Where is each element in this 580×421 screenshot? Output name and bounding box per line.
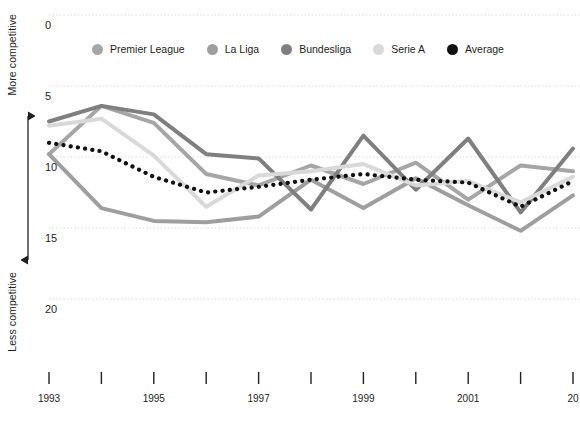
legend-item-label: Bundesliga: [299, 43, 351, 55]
legend-item[interactable]: Serie A: [373, 43, 425, 55]
legend-item-label: Premier League: [110, 43, 185, 55]
legend-dot-icon: [92, 44, 103, 55]
y-axis-tick-label: 15: [45, 232, 57, 244]
competitive-balance-line-chart: More competitive Less competitive Premie…: [0, 0, 580, 421]
plot-area: [0, 0, 580, 421]
x-axis-tick-label: 1993: [24, 393, 74, 404]
x-axis-tick-label: 1995: [129, 393, 179, 404]
y-axis-tick-label: 0: [45, 19, 51, 31]
legend-dot-icon: [447, 44, 458, 55]
legend-item-label: Average: [465, 43, 504, 55]
legend-item[interactable]: Premier League: [92, 43, 185, 55]
legend-item[interactable]: La Liga: [207, 43, 259, 55]
y-axis-tick-label: 20: [45, 303, 57, 315]
x-axis-tick-label: 1997: [234, 393, 284, 404]
y-axis-tick-label: 5: [45, 90, 51, 102]
chart-legend: Premier LeagueLa LigaBundesligaSerie AAv…: [92, 38, 526, 60]
legend-item[interactable]: Bundesliga: [281, 43, 351, 55]
legend-dot-icon: [281, 44, 292, 55]
legend-item-label: La Liga: [225, 43, 259, 55]
legend-dot-icon: [373, 44, 384, 55]
legend-item[interactable]: Average: [447, 43, 504, 55]
x-axis-tick-label: 1999: [338, 393, 388, 404]
x-axis-tick-label: 20: [548, 393, 580, 404]
series-line-premier-league: [49, 106, 573, 200]
x-axis-tick-label: 2001: [443, 393, 493, 404]
legend-item-label: Serie A: [391, 43, 425, 55]
y-axis-tick-label: 10: [45, 161, 57, 173]
legend-dot-icon: [207, 44, 218, 55]
